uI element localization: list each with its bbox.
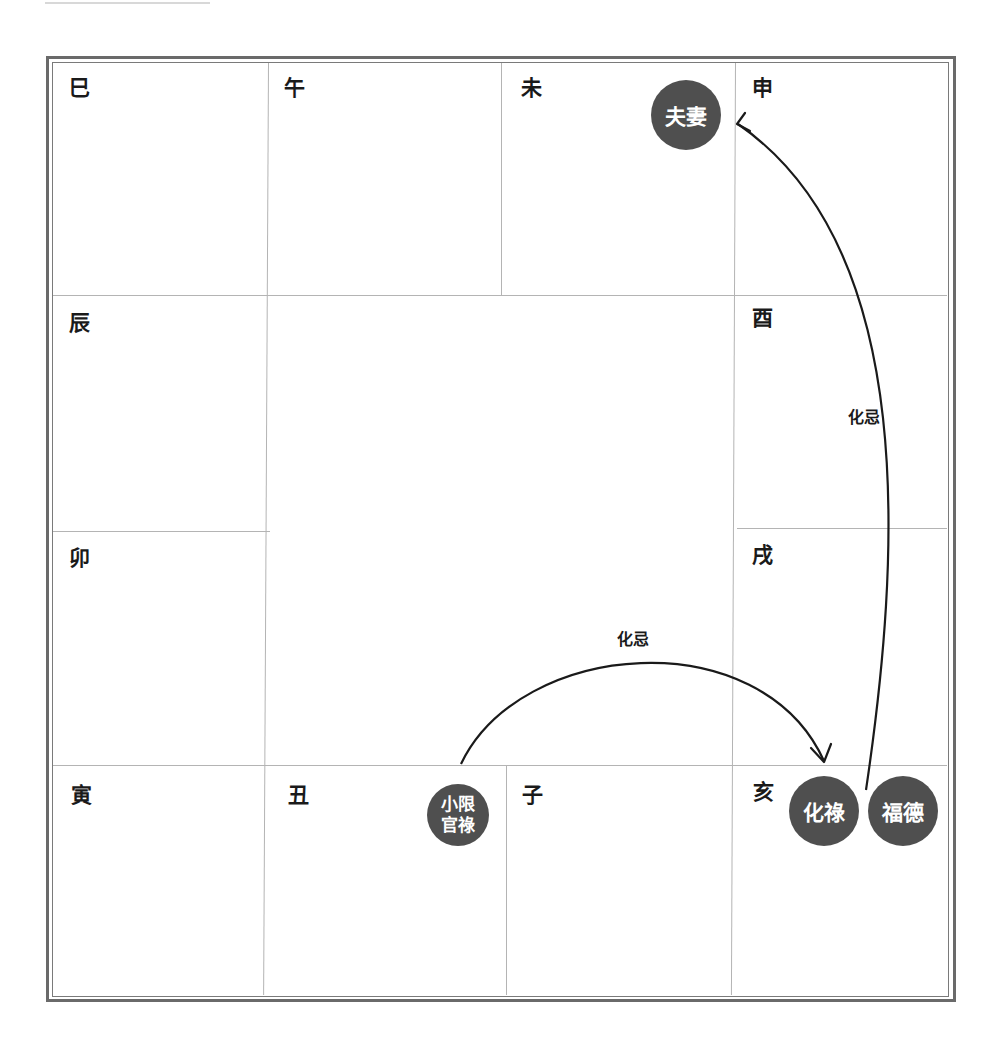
arrowhead-fude-to-shen — [737, 113, 750, 131]
arrow-chou-to-hai — [461, 663, 824, 764]
arrows-layer — [0, 0, 1001, 1058]
arrow-label-fude-to-shen: 化忌 — [848, 410, 880, 426]
arrow-label-chou-to-hai: 化忌 — [617, 632, 649, 648]
